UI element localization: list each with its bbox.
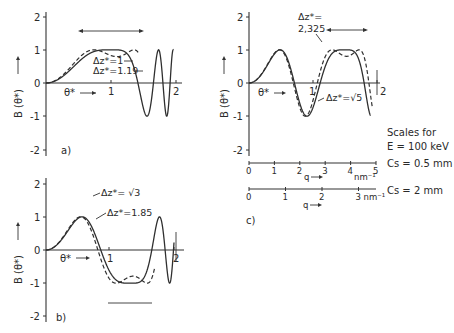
y-ticks: 2 1 0 -1 -2 [233,12,249,156]
svg-text:B (θ*): B (θ*) [13,255,24,284]
svg-text:q: q [304,172,309,182]
y-ticks: 2 1 0 -1 -2 [30,12,46,156]
panel-c: 2 1 0 -1 -2 1 2 θ* B (θ*) Δz*= 2,325 Δz*… [219,11,453,226]
tick-label: 2 [34,12,40,23]
tick-label: 1 [108,86,114,97]
tick-label: 2 [173,86,179,97]
annotation-dz-2.325-value: 2,325 [298,23,325,34]
figure: 2 1 0 -1 -2 1 2 θ* B (θ*) Δz*=1 Δz*=1.19… [0,0,454,333]
tick-label: -1 [30,111,40,122]
svg-text:1: 1 [283,192,288,202]
svg-text:B (θ*): B (θ*) [219,89,230,118]
annotation-dz-sqrt5: Δz*=√5 [326,92,362,103]
svg-text:nm⁻¹: nm⁻¹ [354,172,376,182]
svg-text:2: 2 [297,166,302,176]
x-axis-label: θ* [60,253,71,264]
svg-text:2: 2 [319,192,324,202]
tick-label: -2 [233,145,243,156]
tick-label: 1 [237,45,243,56]
svg-text:1: 1 [271,166,276,176]
tick-label: 1 [34,45,40,56]
y-axis-label: B (θ*) [13,222,24,284]
y-ticks: 2 1 0 -1 -2 [30,179,46,322]
x-axis-label: θ* [258,87,269,98]
tick-label: 0 [34,245,40,256]
x-axis-label: θ* [64,87,75,98]
tick-label: -1 [30,278,40,289]
tick-label: 0 [34,78,40,89]
panel-b: 2 1 0 -1 -2 1 2 θ* B (θ*) Δz*= √3 Δz*=1.… [13,178,184,323]
svg-text:0: 0 [246,166,251,176]
tick-label: 2 [380,86,386,97]
svg-text:4: 4 [348,166,353,176]
annotation-dz-sqrt3: Δz*= √3 [101,187,140,198]
tick-label: 1 [107,253,113,264]
tick-label: 1 [34,212,40,223]
energy-label: E = 100 keV [387,141,449,152]
panel-label-b: b) [56,312,66,323]
q-scale-cs-2: 0123 nm⁻¹ q [246,187,385,210]
y-axis-label: B (θ*) [219,56,230,118]
cs-label-2mm: Cs = 2 mm [387,185,443,196]
cs-label-0.5mm: Cs = 0.5 mm [387,158,453,169]
q-scale-cs-0.5: 012345 q nm⁻¹ [246,161,378,182]
svg-text:q: q [303,200,308,210]
svg-text:B (θ*): B (θ*) [13,89,24,118]
scales-note: Scales for [387,127,437,138]
annotation-dz-1.85: Δz*=1.85 [107,207,152,218]
tick-label: 2 [34,179,40,190]
tick-label: 0 [237,78,243,89]
panel-label-a: a) [61,145,71,156]
panel-a: 2 1 0 -1 -2 1 2 θ* B (θ*) Δz*=1 Δz*=1.19… [13,12,182,156]
tick-label: -2 [30,311,40,322]
tick-label: -2 [30,145,40,156]
tick-label: 2 [237,12,243,23]
annotation-dz-1.19: Δz*=1.19 [93,65,138,76]
panel-label-c: c) [246,215,255,226]
svg-text:0: 0 [246,192,251,202]
svg-text:3: 3 [322,166,327,176]
y-axis-label: B (θ*) [13,56,24,118]
tick-label: -1 [233,111,243,122]
annotation-dz-2.325: Δz*= [298,11,322,22]
svg-text:3 nm⁻¹: 3 nm⁻¹ [356,192,386,202]
